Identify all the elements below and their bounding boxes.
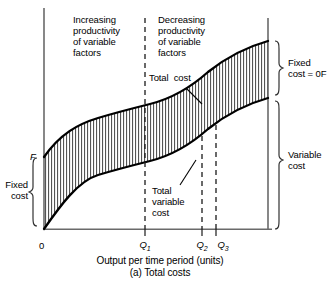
annotation-decreasing-productivity: Decreasing productivity of variable fact…	[158, 14, 230, 58]
tick-label-q1-subscript: 1	[147, 245, 151, 252]
tick-label-q3: Q3	[211, 239, 235, 254]
brace-variable-cost-right	[275, 101, 283, 229]
x-axis-ticks	[145, 229, 216, 236]
label-fixed-cost-point-f: F	[30, 151, 36, 162]
label-fixed-cost-left: Fixed cost	[0, 179, 28, 201]
tick-label-q2-base: Q	[196, 239, 203, 250]
label-total-variable-cost: Total variable cost	[152, 185, 202, 218]
total-costs-figure: Increasing productivity of variable fact…	[0, 0, 333, 282]
tick-label-q3-base: Q	[217, 239, 224, 250]
tick-label-q3-subscript: 3	[225, 245, 229, 252]
tick-label-q2-subscript: 2	[204, 245, 208, 252]
label-variable-cost-right: Variable cost	[288, 149, 333, 171]
brace-fixed-cost-left	[29, 158, 37, 226]
brace-fixed-cost-right	[275, 41, 283, 95]
label-total-cost: Total cost	[149, 72, 191, 83]
leader-total-variable-cost	[180, 160, 196, 185]
figure-caption: (a) Total costs	[60, 267, 260, 278]
label-origin: 0	[39, 240, 44, 251]
annotation-increasing-productivity: Increasing productivity of variable fact…	[73, 14, 139, 58]
x-axis-title: Output per time period (units)	[60, 255, 260, 266]
tick-label-q1-base: Q	[139, 239, 146, 250]
label-fixed-cost-right: Fixed cost = 0F	[288, 57, 333, 79]
tick-label-q1: Q1	[133, 239, 157, 254]
